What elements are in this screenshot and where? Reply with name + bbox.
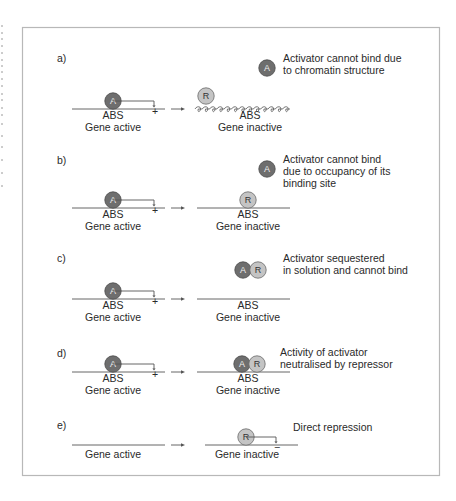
gene-inactive-state: ABSGene inactive [197,299,290,323]
legend-text-line: Activator sequestered [283,252,385,264]
gene-active-state: A+ABSGene active [72,192,165,232]
transition-arrow [171,107,185,111]
activator-letter: A [239,359,245,369]
panel-b: b)AActivator cannot binddue to occupancy… [57,153,390,232]
transition-arrowhead [181,297,185,301]
repressor-letter: R [255,265,262,275]
gene-state-label: Gene active [85,220,141,232]
legend-text-line: Activator cannot bind due [283,52,402,64]
binding-site-label: ABS [239,109,260,121]
legend-text-line: Activity of activator [280,346,368,358]
activator-letter: A [264,63,270,73]
binding-site-label: ABS [102,372,123,384]
gene-active-state: Gene active [72,445,165,460]
gene-state-label: Gene inactive [216,384,280,396]
transition-arrowhead [181,443,185,447]
legend-text-line: due to occupancy of its [283,165,390,177]
binding-site-label: ABS [102,109,123,121]
transition-arrow [171,370,185,374]
plus-sign: + [152,105,158,117]
legend-repressor-icon: R [250,262,266,278]
repressor-letter: R [254,359,261,369]
panel-a: a)AActivator cannot bind dueto chromatin… [57,52,402,133]
gene-regulation-diagram: a)AActivator cannot bind dueto chromatin… [0,0,456,501]
gene-inactive-state: R−Gene inactive [205,429,298,460]
plus-sign: + [152,295,158,307]
gene-state-label: Gene inactive [216,220,280,232]
panel-e: e)Direct repressionGene activeR−Gene ina… [57,419,373,460]
transition-arrowhead [181,206,185,210]
repressor-letter: R [245,195,252,205]
gene-inactive-state: RABSGene inactive [195,88,290,133]
gene-state-label: Gene active [85,384,141,396]
legend-activator-icon: A [259,60,275,76]
panel-c: c)ARActivator sequesteredin solution and… [57,252,408,323]
panel-label: d) [57,347,66,359]
gene-state-label: Gene active [85,448,141,460]
legend-activator-icon: A [259,161,275,177]
repressor-bound: R [198,88,214,104]
gene-state-label: Gene inactive [216,311,280,323]
panel-label: a) [57,52,66,64]
panel-d: d)Activity of activatorneutralised by re… [57,346,393,396]
repressor-letter: R [203,91,210,101]
binding-site-label: ABS [102,299,123,311]
gene-state-label: Gene active [85,311,141,323]
legend-text-line: Direct repression [293,421,373,433]
plus-sign: + [152,368,158,380]
gene-active-state: A+ABSGene active [72,93,165,133]
activator-letter: A [240,265,246,275]
panel-label: b) [57,154,66,166]
panel-label: e) [57,419,66,431]
legend-text-line: binding site [283,177,336,189]
legend-text-line: in solution and cannot bind [283,264,408,276]
transition-arrow [171,297,185,301]
gene-state-label: Gene active [85,121,141,133]
binding-site-label: ABS [102,208,123,220]
repressor-bound: R [249,356,265,372]
panel-label: c) [57,252,66,264]
left-edge-marks [1,26,3,186]
legend-text-line: Activator cannot bind [283,153,381,165]
legend-text-line: neutralised by repressor [280,358,393,370]
binding-site-label: ABS [237,299,258,311]
gene-inactive-state: ARABSGene inactive [197,356,290,396]
transition-arrowhead [181,370,185,374]
gene-state-label: Gene inactive [218,121,282,133]
gene-inactive-state: RABSGene inactive [197,192,290,232]
activator-bound: A [234,356,250,372]
gene-active-state: A+ABSGene active [72,356,165,396]
gene-active-state: A+ABSGene active [72,283,165,323]
legend-activator-icon: A [235,262,251,278]
repressor-bound: R [240,192,256,208]
activator-letter: A [264,164,270,174]
legend-text-line: to chromatin structure [283,64,385,76]
binding-site-label: ABS [237,208,258,220]
gene-state-label: Gene inactive [215,448,279,460]
transition-arrowhead [181,107,185,111]
binding-site-label: ABS [237,372,258,384]
transition-arrow [171,206,185,210]
transition-arrow [171,443,185,447]
plus-sign: + [152,204,158,216]
